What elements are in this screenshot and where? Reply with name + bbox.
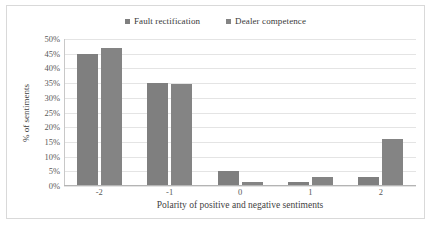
bar[interactable]	[171, 84, 192, 186]
x-axis-tick-label: 1	[275, 187, 345, 197]
y-axis-tick-label: 15%	[44, 137, 60, 147]
x-axis-tick-label: 0	[205, 187, 275, 197]
y-axis-tick-label: 25%	[44, 108, 60, 118]
y-axis-tick-label: 5%	[49, 166, 60, 176]
bar[interactable]	[101, 48, 122, 186]
y-axis-title-label: % of sentiments	[21, 84, 31, 142]
y-axis-tick-label: 35%	[44, 78, 60, 88]
bar[interactable]	[382, 139, 403, 186]
plot-area: 50%45%40%35%30%25%20%15%10%5%0%	[64, 39, 416, 186]
y-axis-tick-label: 40%	[44, 63, 60, 73]
legend-swatch-icon	[125, 19, 130, 24]
y-axis-tick-label: 30%	[44, 93, 60, 103]
legend-label: Dealer competence	[235, 16, 306, 26]
y-axis-tick-label: 0%	[49, 181, 60, 191]
bar-group	[134, 39, 204, 186]
x-axis-tick-label: -1	[134, 187, 204, 197]
bar[interactable]	[77, 54, 98, 186]
x-axis-ticks: -2-1012	[64, 187, 416, 197]
y-axis-tick-label: 10%	[44, 152, 60, 162]
legend-swatch-icon	[226, 19, 231, 24]
bar-group	[205, 39, 275, 186]
bar-group	[64, 39, 134, 186]
y-axis-title: % of sentiments	[20, 39, 32, 186]
legend-entry[interactable]: Fault rectification	[125, 16, 200, 26]
legend-entry[interactable]: Dealer competence	[226, 16, 306, 26]
legend-label: Fault rectification	[134, 16, 200, 26]
bar-groups	[64, 39, 416, 186]
x-axis-line	[64, 185, 416, 186]
x-axis-tick-label: -2	[64, 187, 134, 197]
bar[interactable]	[218, 171, 239, 186]
bar[interactable]	[147, 83, 168, 186]
x-axis-tick-label: 2	[346, 187, 416, 197]
y-axis-tick-label: 20%	[44, 122, 60, 132]
y-axis-tick-label: 50%	[44, 34, 60, 44]
chart-figure: Fault rectificationDealer competence % o…	[6, 5, 425, 219]
chart-legend: Fault rectificationDealer competence	[7, 16, 424, 26]
bar-group	[346, 39, 416, 186]
y-axis-tick-label: 45%	[44, 49, 60, 59]
x-axis-title: Polarity of positive and negative sentim…	[64, 200, 416, 210]
bar-group	[275, 39, 345, 186]
